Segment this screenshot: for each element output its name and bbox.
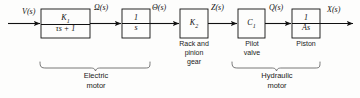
block-expression-first-order-lag: K1 τs + 1	[41, 14, 90, 34]
block-denominator-tau: τs + 1	[41, 24, 90, 33]
block-expression-gear-gain: K2	[180, 19, 208, 29]
signal-label-input: V(s)	[22, 8, 35, 16]
block-diagram: V(s) Ω(s) Θ(s) Z(s) Q(s) X(s) K1 τs + 1 …	[0, 0, 360, 98]
signal-label-output: X(s)	[327, 6, 340, 14]
caption-piston: Piston	[289, 40, 323, 49]
block-numerator-subscript-k1: 1	[67, 18, 70, 24]
signal-label-q: Q(s)	[269, 4, 283, 12]
block-expression-integrator: 1 s	[122, 14, 150, 32]
caption-pilot-valve: Pilot valve	[228, 40, 276, 58]
signal-label-omega: Ω(s)	[94, 4, 108, 12]
block-denominator-as: As	[292, 23, 320, 32]
signal-label-z: Z(s)	[211, 4, 224, 12]
block-denominator-s: s	[122, 23, 150, 32]
group-label-hydraulic-motor: Hydraulic motor	[250, 71, 304, 91]
brace-hydraulic-motor	[232, 62, 320, 71]
block-gain-subscript-k2: 2	[195, 23, 198, 29]
group-label-electric-motor: Electric motor	[70, 71, 122, 91]
block-gain-subscript-c1: 1	[253, 23, 256, 29]
signal-label-theta: Θ(s)	[152, 4, 166, 12]
block-expression-pilot-valve-gain: C1	[238, 19, 265, 29]
block-numerator-one-piston: 1	[292, 14, 320, 22]
brace-electric-motor	[40, 62, 150, 71]
caption-rack-and-pinion-gear: Rack and pinion gear	[169, 40, 219, 66]
block-expression-piston-integrator: 1 As	[292, 14, 320, 32]
block-numerator-one: 1	[122, 14, 150, 22]
